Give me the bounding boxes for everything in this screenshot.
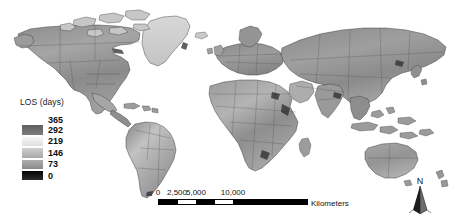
scalebar-tick-0: 0 <box>156 188 160 197</box>
world-map-figure: LOS (days) 365 292 219 146 73 <box>0 0 455 221</box>
landmass-british-isles <box>207 45 224 56</box>
scalebar-tick-5000: 5,000 <box>186 188 206 197</box>
scalebar-tick-labels: 0 2,500 5,000 10,000 <box>158 188 373 199</box>
scalebar-segment-5 <box>233 200 307 204</box>
map-scalebar: 0 2,500 5,000 10,000 Kilometers <box>158 188 373 205</box>
legend-label-0: 0 <box>48 171 53 181</box>
scalebar-segment-3 <box>196 200 215 204</box>
legend-label-219: 219 <box>48 136 63 146</box>
legend-title: LOS (days) <box>20 97 104 108</box>
scalebar-bar <box>158 199 308 205</box>
legend-entry-146: 146 <box>22 147 104 158</box>
legend-entry-73: 73 <box>22 159 104 170</box>
landmass-greenland <box>142 16 190 66</box>
landmass-arabia <box>289 81 314 103</box>
legend-swatch-73 <box>22 160 43 169</box>
landmass-central-america <box>110 110 131 127</box>
legend-swatch-146 <box>22 148 43 157</box>
landmass-india <box>315 84 344 118</box>
landmass-caribbean <box>124 103 158 113</box>
scalebar-segment-2 <box>178 200 197 204</box>
north-arrow-icon <box>405 186 435 220</box>
legend-label-73: 73 <box>48 159 58 169</box>
legend-swatch-219 <box>22 137 43 146</box>
legend-entry-219: 219 <box>22 136 104 147</box>
landmass-japan <box>411 65 427 85</box>
scalebar-tick-10000: 10,000 <box>221 188 245 197</box>
landmass-south-america <box>126 122 176 198</box>
legend-label-146: 146 <box>48 148 63 158</box>
legend-entry-0: 0 <box>22 170 104 181</box>
legend-entry-292: 292 <box>22 124 104 135</box>
scalebar-tick-2500: 2,500 <box>167 188 187 197</box>
legend-swatch-365-spacer <box>22 114 43 123</box>
north-arrow: N <box>405 176 435 218</box>
landmass-australia <box>365 143 418 178</box>
legend-entries: 365 292 219 146 73 0 <box>22 113 104 181</box>
legend-entry-365: 365 <box>22 113 104 124</box>
scalebar-units-label: Kilometers <box>311 199 349 208</box>
scalebar-segment-1 <box>159 200 178 204</box>
map-legend: LOS (days) 365 292 219 146 73 <box>18 97 104 181</box>
landmass-new-zealand <box>436 170 448 187</box>
legend-label-292: 292 <box>48 125 63 135</box>
legend-label-365: 365 <box>48 115 63 125</box>
scalebar-segment-4 <box>215 200 234 204</box>
legend-swatch-0 <box>22 171 43 180</box>
landmass-southeast-asia <box>350 96 370 120</box>
north-arrow-label: N <box>405 176 435 186</box>
landmass-europe <box>216 43 284 75</box>
landmass-iceland <box>195 32 208 39</box>
legend-swatch-292 <box>22 125 43 134</box>
landmass-madagascar <box>299 138 311 157</box>
